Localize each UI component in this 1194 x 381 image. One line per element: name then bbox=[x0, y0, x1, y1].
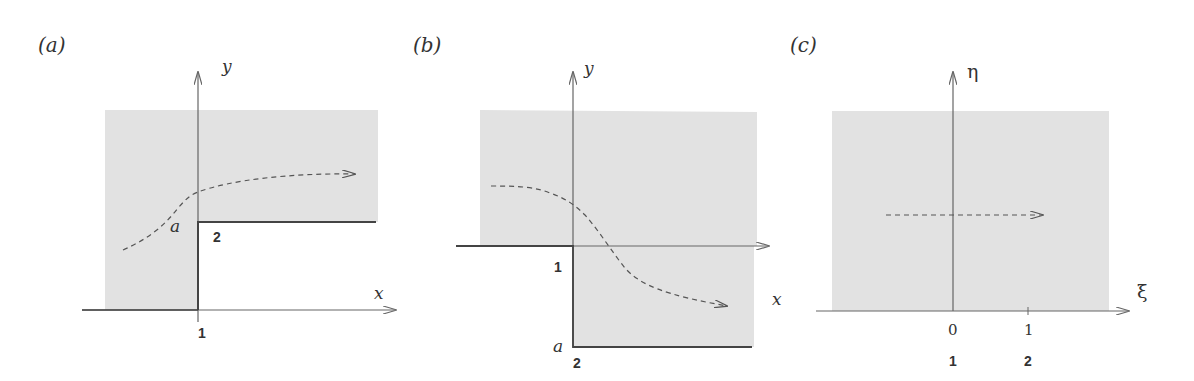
shaded-domain bbox=[480, 110, 757, 347]
corner-label-2: 2 bbox=[1024, 353, 1032, 369]
panel-b-label: (b) bbox=[413, 33, 441, 57]
tick-label-1: 1 bbox=[1024, 321, 1034, 339]
point-a-label: a bbox=[553, 336, 563, 356]
panel-c-label: (c) bbox=[790, 33, 817, 57]
xi-axis-label: ξ bbox=[1137, 280, 1147, 302]
panel-b: (b) y x a 1 2 bbox=[413, 33, 782, 371]
shaded-domain bbox=[105, 110, 378, 310]
panel-c: (c) η ξ 0 1 1 2 bbox=[790, 33, 1147, 369]
x-axis-label: x bbox=[374, 283, 384, 303]
step-boundary bbox=[198, 222, 376, 310]
point-a-label: a bbox=[170, 216, 180, 236]
corner-label-2: 2 bbox=[573, 355, 581, 371]
corner-label-2: 2 bbox=[213, 229, 221, 245]
panel-a: (a) y x a 1 2 bbox=[38, 33, 396, 341]
panel-a-label: (a) bbox=[38, 33, 66, 57]
shaded-domain bbox=[832, 111, 1109, 311]
x-axis-label: x bbox=[772, 289, 782, 309]
y-axis-label: y bbox=[583, 58, 594, 78]
y-axis-label: y bbox=[221, 56, 232, 76]
tick-label-0: 0 bbox=[948, 321, 958, 339]
corner-label-1: 1 bbox=[198, 325, 206, 341]
figure-canvas: (a) y x a 1 2 (b) y x a 1 2 bbox=[0, 0, 1194, 381]
corner-label-1: 1 bbox=[554, 259, 562, 275]
corner-label-1: 1 bbox=[949, 353, 957, 369]
eta-axis-label: η bbox=[967, 60, 978, 82]
